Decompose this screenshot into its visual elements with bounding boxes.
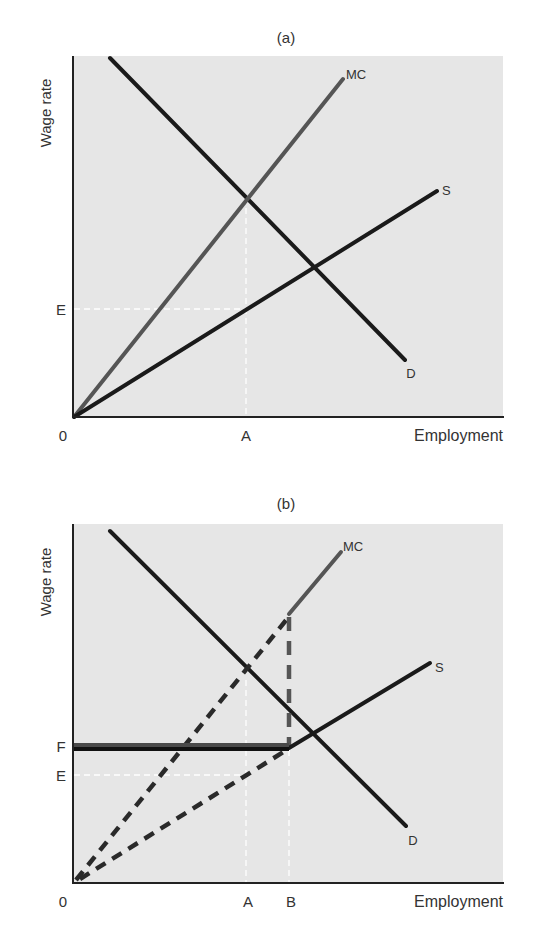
- panel-b-tick-a: A: [243, 893, 253, 910]
- panel-b-origin-label: 0: [59, 893, 67, 910]
- panel-b-tick-f: F: [56, 738, 65, 755]
- panel-a-title: (a): [277, 29, 295, 46]
- panel-b-d-label: D: [408, 833, 417, 848]
- panel-b-tick-b: B: [286, 893, 296, 910]
- panel-b-tick-e: E: [56, 767, 66, 784]
- panel-b-s-label: S: [435, 660, 444, 675]
- panel-a: (a) Wage rate Employment 0 A E MC S D: [37, 29, 504, 444]
- panel-b-y-axis-label: Wage rate: [37, 548, 54, 617]
- panel-a-origin-label: 0: [59, 427, 67, 444]
- panel-a-x-axis-label: Employment: [414, 427, 503, 444]
- panel-a-plot-area: [74, 56, 503, 417]
- figure: (a) Wage rate Employment 0 A E MC S D (b…: [0, 0, 557, 928]
- panel-a-s-label: S: [442, 183, 451, 198]
- panel-b-x-axis-label: Employment: [414, 893, 503, 910]
- panel-a-y-axis-label: Wage rate: [37, 79, 54, 148]
- panel-b-title: (b): [277, 495, 295, 512]
- panel-a-tick-e: E: [56, 301, 66, 318]
- panel-a-tick-a: A: [241, 427, 251, 444]
- panel-b: (b) Wage rate Employment 0 A B F E MC S …: [37, 495, 504, 910]
- panel-b-mc-label: MC: [343, 539, 363, 554]
- panel-a-d-label: D: [406, 366, 415, 381]
- panel-a-mc-label: MC: [346, 67, 366, 82]
- panel-b-plot-area: [74, 524, 503, 883]
